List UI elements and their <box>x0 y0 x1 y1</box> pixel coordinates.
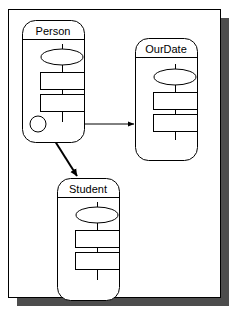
class-ellipse-ourdate <box>154 69 196 85</box>
class-attribute-box-ourdate-2 <box>154 115 198 132</box>
class-title-person: Person <box>36 25 71 37</box>
class-port-circle-person[interactable] <box>30 116 46 132</box>
class-attribute-box-person-2 <box>41 95 85 112</box>
class-ellipse-person <box>41 49 83 65</box>
class-attribute-box-student-2 <box>76 253 120 270</box>
class-box-ourdate[interactable]: OurDate <box>136 39 198 161</box>
class-box-student[interactable]: Student <box>58 179 120 301</box>
uml-class-diagram: PersonOurDateStudent <box>0 0 240 318</box>
class-title-student: Student <box>69 183 107 195</box>
class-ellipse-student <box>76 207 118 223</box>
class-attribute-box-person-1 <box>41 73 85 90</box>
class-title-ourdate: OurDate <box>145 43 187 55</box>
class-attribute-box-student-1 <box>76 231 120 248</box>
diagram-canvas: PersonOurDateStudent <box>0 0 240 318</box>
class-attribute-box-ourdate-1 <box>154 93 198 110</box>
class-box-person[interactable]: Person <box>23 21 85 143</box>
